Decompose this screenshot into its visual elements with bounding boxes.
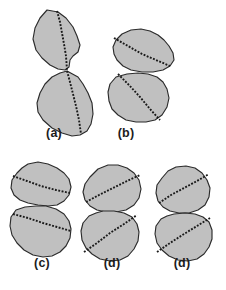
panel-c-upper-fragment	[11, 162, 71, 206]
panel-b-lower-fragment	[108, 73, 169, 122]
panel-label-b: (b)	[110, 126, 142, 140]
panel-b	[108, 29, 174, 122]
panel-b-upper-fragment	[113, 29, 174, 72]
panel-a	[33, 10, 93, 136]
panel-label-d1: (d)	[96, 256, 128, 270]
panel-d1-upper-fragment	[83, 165, 141, 212]
panel-label-c: (c)	[26, 256, 58, 270]
fracture-diagram-canvas	[0, 0, 226, 290]
panel-d1-lower-fragment	[81, 211, 139, 261]
figure-root: (a) (b) (c) (d) (d)	[0, 0, 226, 290]
panel-c	[10, 162, 71, 257]
panel-d2-lower-fragment	[155, 213, 212, 261]
panel-label-d2: (d)	[166, 256, 198, 270]
panel-d1	[81, 165, 141, 261]
panel-d2	[155, 166, 212, 261]
panel-label-a: (a)	[38, 126, 70, 140]
panel-a-upper-fragment	[33, 10, 80, 70]
panel-c-lower-fragment	[10, 206, 71, 257]
